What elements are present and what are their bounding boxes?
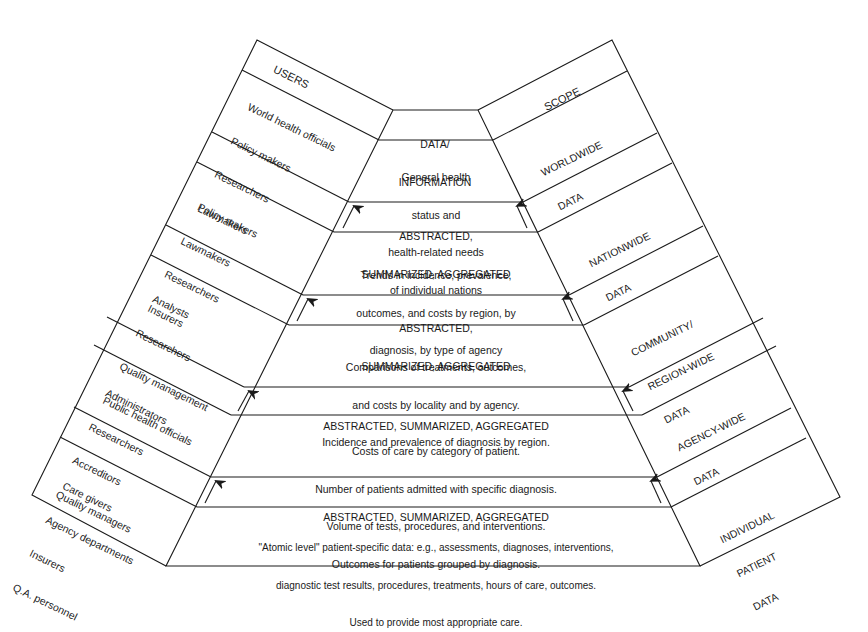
data-line: diagnostic test results, procedures, tre… <box>258 580 613 593</box>
user-label: Administrators <box>104 386 183 433</box>
user-label: Lawmakers <box>179 234 243 274</box>
up-arrow-icon <box>297 299 308 321</box>
up-arrow-icon <box>238 391 249 411</box>
transition-line: ABSTRACTED, <box>361 230 510 243</box>
data-level-individual: "Atomic level" patient-specific data: e.… <box>258 517 613 632</box>
data-line: Comparisons of treatments, outcomes, <box>322 361 550 374</box>
transition-line: ABSTRACTED, <box>361 322 510 335</box>
data-line: Trends in incidence, prevalence, <box>356 269 515 282</box>
up-arrow-icon <box>343 206 354 228</box>
up-arrow-icon <box>651 481 661 503</box>
data-line: Used to provide most appropriate care. <box>258 617 613 630</box>
scope-line: AGENCY-WIDE <box>675 410 747 454</box>
scope-line: COMMUNITY/ <box>629 316 700 359</box>
scope-line: WORLDWIDE <box>539 138 604 178</box>
up-arrow-icon <box>623 391 633 411</box>
user-label: Q.A. personnel <box>11 581 103 632</box>
user-label: Policy makers <box>196 200 260 240</box>
user-label: Researchers <box>87 420 166 467</box>
scope-line: PATIENT <box>734 542 792 579</box>
scope-line: REGION-WIDE <box>645 349 716 392</box>
data-line: General health <box>388 171 484 184</box>
up-arrow-icon <box>517 206 527 228</box>
scope-line: INDIVIDUAL <box>718 509 776 546</box>
data-line: Costs of care by category of patient. <box>315 445 557 458</box>
data-line: "Atomic level" patient-specific data: e.… <box>258 542 613 555</box>
scope-line: DATA <box>751 576 809 613</box>
scope-line: NATIONWIDE <box>587 229 652 269</box>
